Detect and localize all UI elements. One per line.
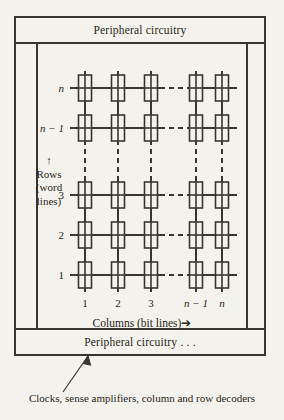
rows-caption-line-2: (word — [26, 181, 72, 195]
column-label-3: 3 — [148, 298, 154, 309]
caption-leader-arrowhead — [84, 356, 91, 365]
column-label-4: n − 1 — [184, 298, 208, 309]
rows-axis-caption: ↑ Rows (word lines) — [26, 154, 72, 208]
figure-caption: Clocks, sense amplifiers, column and row… — [0, 392, 284, 404]
peripheral-circuitry-top-label: Peripheral circuitry — [93, 24, 186, 36]
row-label-5: 1 — [28, 270, 64, 281]
row-label-1: n — [28, 83, 64, 94]
peripheral-circuitry-top: Peripheral circuitry — [14, 16, 266, 44]
row-label-2: n − 1 — [28, 123, 64, 134]
rows-caption-line-3: lines) — [26, 195, 72, 209]
peripheral-circuitry-bottom-label: Peripheral circuitry . . . — [84, 336, 196, 348]
columns-axis-caption: Columns (bit lines)➔ — [0, 316, 284, 330]
caption-leader-line — [63, 356, 88, 392]
peripheral-circuitry-bottom: Peripheral circuitry . . . — [14, 328, 266, 356]
column-label-1: 1 — [82, 298, 88, 309]
rows-caption-line-1: Rows — [26, 168, 72, 182]
column-label-5: n — [219, 298, 225, 309]
row-label-4: 2 — [28, 230, 64, 241]
rows-up-arrow-icon: ↑ — [26, 154, 72, 168]
column-label-2: 2 — [115, 298, 121, 309]
figure-root: Peripheral circuitry Peripheral circuitr… — [0, 0, 284, 420]
peripheral-rail-right — [246, 44, 248, 328]
